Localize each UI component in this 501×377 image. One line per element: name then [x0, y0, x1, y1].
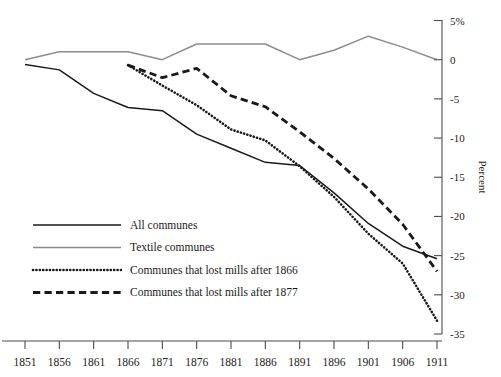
legend-label-2: Communes that lost mills after 1866	[130, 264, 298, 276]
y-tick-label: -20	[450, 210, 465, 222]
line-chart: 5%0-5-10-15-20-25-30-35 Percent 18511856…	[0, 0, 501, 377]
x-tick-label: 1866	[117, 356, 140, 368]
y-tick-label: -10	[450, 132, 465, 144]
y-tick-label: -35	[450, 328, 465, 340]
x-tick-label: 1891	[288, 356, 311, 368]
x-tick-label: 1861	[82, 356, 105, 368]
legend-label-0: All communes	[130, 219, 198, 231]
y-tick-label: -15	[450, 171, 465, 183]
y-tick-label: 0	[450, 54, 456, 66]
y-tick-label: 5%	[450, 15, 465, 27]
x-tick-label: 1856	[48, 356, 71, 368]
chart-container: 5%0-5-10-15-20-25-30-35 Percent 18511856…	[0, 0, 501, 377]
y-tick-label: -5	[450, 93, 460, 105]
x-tick-label: 1906	[391, 356, 414, 368]
x-tick-label: 1911	[426, 356, 449, 368]
chart-background	[0, 0, 501, 377]
x-tick-label: 1896	[323, 356, 346, 368]
legend-label-1: Textile communes	[130, 241, 215, 253]
legend-label-3: Communes that lost mills after 1877	[130, 286, 298, 298]
y-tick-label: -30	[450, 289, 465, 301]
x-tick-label: 1851	[14, 356, 37, 368]
x-tick-label: 1901	[357, 356, 380, 368]
x-tick-label: 1886	[254, 356, 277, 368]
x-tick-label: 1871	[151, 356, 174, 368]
x-tick-label: 1876	[185, 356, 208, 368]
x-tick-label: 1881	[220, 356, 243, 368]
y-axis-title: Percent	[477, 161, 489, 194]
y-tick-label: -25	[450, 250, 465, 262]
